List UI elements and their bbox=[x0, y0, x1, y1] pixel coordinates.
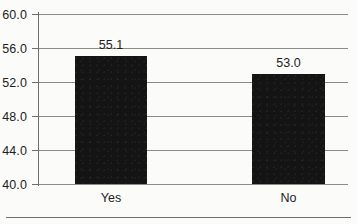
y-tick-mark-48 bbox=[32, 116, 39, 117]
y-tick-label-56: 56.0 bbox=[2, 43, 27, 56]
y-tick-mark-60 bbox=[32, 14, 39, 15]
gridline-40 bbox=[38, 184, 348, 185]
gridline-60 bbox=[38, 14, 348, 15]
y-tick-label-48: 48.0 bbox=[2, 111, 27, 124]
category-label-no: No bbox=[252, 192, 325, 205]
bar-chart-figure: 60.0 56.0 52.0 48.0 44.0 40.0 55.1 53.0 … bbox=[0, 0, 357, 224]
y-tick-mark-52 bbox=[32, 82, 39, 83]
y-tick-mark-40 bbox=[32, 184, 39, 185]
y-tick-label-60: 60.0 bbox=[2, 9, 27, 22]
bar-yes bbox=[75, 56, 147, 184]
y-axis-line bbox=[38, 12, 39, 186]
y-tick-label-40: 40.0 bbox=[2, 179, 27, 192]
category-label-yes: Yes bbox=[75, 192, 147, 205]
bar-no bbox=[252, 74, 325, 184]
y-tick-mark-56 bbox=[32, 48, 39, 49]
y-tick-label-44: 44.0 bbox=[2, 145, 27, 158]
bar-value-no: 53.0 bbox=[252, 57, 325, 70]
bar-value-yes: 55.1 bbox=[75, 39, 147, 52]
footer-separator-rule bbox=[6, 217, 351, 218]
y-tick-mark-44 bbox=[32, 150, 39, 151]
y-tick-label-52: 52.0 bbox=[2, 77, 27, 90]
